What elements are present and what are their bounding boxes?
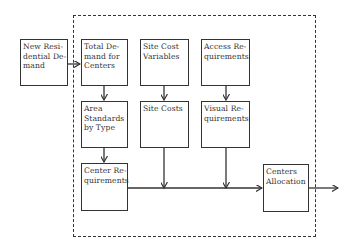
label: Centers Allocation [266,167,306,186]
box-access-requirements: Access Re- quirements [201,39,250,86]
box-area-standards: Area Standards by Type [81,101,128,148]
box-site-costs: Site Costs [140,101,189,148]
label: Area Standards by Type [84,104,124,132]
box-site-cost-variables: Site Cost Variables [140,39,189,86]
label: Access Re- quirements [204,42,249,61]
label: Site Costs [143,104,183,113]
box-center-requirements: Center Re- quirements [81,163,128,211]
box-visual-requirements: Visual Re- quirements [201,101,250,148]
box-new-residential-demand: New Resi- dential De- mand [20,39,68,86]
box-centers-allocation: Centers Allocation [263,164,309,212]
label: Site Cost Variables [143,42,179,61]
label: New Resi- dential De- mand [23,42,66,70]
label: Total De- mand for Centers [84,42,120,70]
label: Visual Re- quirements [204,104,249,123]
box-total-demand: Total De- mand for Centers [81,39,128,86]
label: Center Re- quirements [84,166,129,185]
